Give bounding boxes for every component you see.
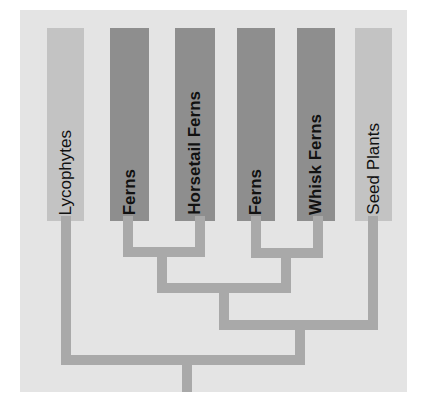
branch-join-seed-plants	[224, 221, 373, 325]
cladogram-panel: Lycophytes Ferns Horsetail Ferns Ferns W…	[20, 10, 407, 392]
cladogram-branches	[20, 10, 407, 392]
